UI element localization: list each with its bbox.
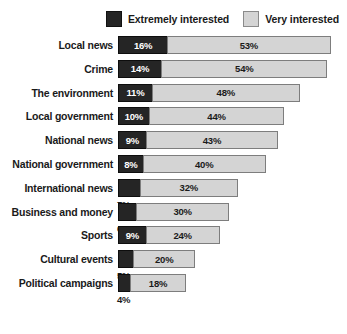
bar-value-label: 20%	[155, 254, 173, 265]
bar-row-crime: Crime14%54%	[0, 60, 347, 82]
bar-segment-extremely-interested: 8%	[118, 155, 143, 173]
bar-value-label: 43%	[203, 135, 221, 146]
bar-segment-very-interested: 53%	[167, 36, 330, 54]
bar-track: 6%30%	[118, 203, 229, 221]
plot-area: Local news16%53%Crime14%54%The environme…	[0, 36, 347, 334]
bar-segment-very-interested: 18%	[130, 274, 185, 292]
bar-row-local-news: Local news16%53%	[0, 36, 347, 58]
bar-row-local-government: Local government10%44%	[0, 107, 347, 129]
bar-track: 14%54%	[118, 60, 327, 78]
stacked-bar-chart: Extremely interested Very interested Loc…	[0, 0, 347, 334]
bar-track: 16%53%	[118, 36, 331, 54]
bar-value-label: 9%	[126, 135, 139, 146]
bar-segment-extremely-interested: 11%	[118, 84, 152, 102]
bar-segment-very-interested: 30%	[136, 203, 228, 221]
bar-value-label: 18%	[149, 278, 167, 289]
bar-value-label: 9%	[126, 230, 139, 241]
bar-row-sports: Sports9%24%	[0, 226, 347, 248]
category-label-sports: Sports	[0, 226, 113, 244]
bar-value-label: 11%	[126, 87, 144, 98]
category-label-crime: Crime	[0, 60, 113, 78]
bar-value-label: 44%	[207, 111, 225, 122]
bar-segment-very-interested: 48%	[152, 84, 300, 102]
bar-value-label: 53%	[240, 40, 258, 51]
bar-value-label: 40%	[195, 159, 213, 170]
bar-segment-extremely-interested: 4%	[118, 274, 130, 292]
bar-segment-extremely-interested: 10%	[118, 107, 149, 125]
bar-track: 9%43%	[118, 131, 278, 149]
dark-square-icon	[106, 11, 122, 27]
bar-row-cultural-events: Cultural events5%20%	[0, 250, 347, 272]
category-label-international-news: International news	[0, 179, 113, 197]
bar-segment-extremely-interested: 6%	[118, 203, 136, 221]
bar-value-label: 4%	[117, 294, 130, 305]
category-label-local-news: Local news	[0, 36, 113, 54]
bar-value-label: 8%	[124, 159, 137, 170]
bar-value-label: 48%	[217, 87, 235, 98]
bar-segment-very-interested: 24%	[146, 226, 220, 244]
bar-track: 4%18%	[118, 274, 186, 292]
bar-track: 5%20%	[118, 250, 195, 268]
category-label-local-government: Local government	[0, 107, 113, 125]
chart-legend: Extremely interested Very interested	[0, 7, 347, 31]
bar-value-label: 24%	[173, 230, 191, 241]
bar-track: 9%24%	[118, 226, 220, 244]
legend-label-extremely-interested: Extremely interested	[128, 13, 229, 25]
category-label-political-campaigns: Political campaigns	[0, 274, 113, 292]
bar-row-national-news: National news9%43%	[0, 131, 347, 153]
bar-row-political-campaigns: Political campaigns4%18%	[0, 274, 347, 296]
bar-track: 10%44%	[118, 107, 284, 125]
bar-segment-very-interested: 32%	[140, 179, 239, 197]
bar-track: 11%48%	[118, 84, 300, 102]
bar-row-international-news: International news7%32%	[0, 179, 347, 201]
bar-segment-extremely-interested: 14%	[118, 60, 161, 78]
bar-segment-very-interested: 43%	[146, 131, 278, 149]
bar-track: 7%32%	[118, 179, 238, 197]
bar-segment-extremely-interested: 5%	[118, 250, 133, 268]
category-label-the-environment: The environment	[0, 84, 113, 102]
bar-value-label: 54%	[235, 63, 253, 74]
bar-segment-very-interested: 44%	[149, 107, 285, 125]
bar-value-label: 10%	[125, 111, 143, 122]
legend-entry-extremely-interested: Extremely interested	[106, 11, 229, 27]
light-square-icon	[243, 11, 259, 27]
category-label-national-government: National government	[0, 155, 113, 173]
bar-segment-extremely-interested: 9%	[118, 131, 146, 149]
bar-row-national-government: National government8%40%	[0, 155, 347, 177]
bar-track: 8%40%	[118, 155, 266, 173]
bar-segment-extremely-interested: 9%	[118, 226, 146, 244]
legend-label-very-interested: Very interested	[265, 13, 339, 25]
bar-value-label: 32%	[180, 182, 198, 193]
category-label-cultural-events: Cultural events	[0, 250, 113, 268]
bar-row-the-environment: The environment11%48%	[0, 84, 347, 106]
legend-entry-very-interested: Very interested	[243, 11, 339, 27]
bar-segment-very-interested: 40%	[143, 155, 266, 173]
bar-value-label: 30%	[173, 206, 191, 217]
bar-segment-very-interested: 20%	[133, 250, 195, 268]
bar-value-label: 16%	[134, 40, 152, 51]
category-label-business-and-money: Business and money	[0, 203, 113, 221]
bar-segment-extremely-interested: 7%	[118, 179, 140, 197]
bar-segment-very-interested: 54%	[161, 60, 327, 78]
bar-row-business-and-money: Business and money6%30%	[0, 203, 347, 225]
bar-value-label: 14%	[131, 63, 149, 74]
category-label-national-news: National news	[0, 131, 113, 149]
bar-segment-extremely-interested: 16%	[118, 36, 167, 54]
